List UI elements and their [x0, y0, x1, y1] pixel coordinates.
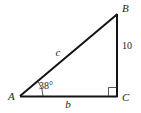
vertex-label-a: A	[7, 90, 15, 102]
vertex-label-c: C	[122, 91, 130, 103]
triangle-diagram-svg: A B C c b 10 38°	[0, 0, 141, 113]
side-label-vertical-10: 10	[122, 40, 132, 51]
vertex-label-b: B	[122, 2, 129, 14]
side-label-b: b	[65, 98, 71, 110]
geometry-figure: A B C c b 10 38°	[0, 0, 141, 113]
angle-label-38-degrees: 38°	[39, 80, 53, 91]
side-label-c: c	[56, 46, 61, 58]
